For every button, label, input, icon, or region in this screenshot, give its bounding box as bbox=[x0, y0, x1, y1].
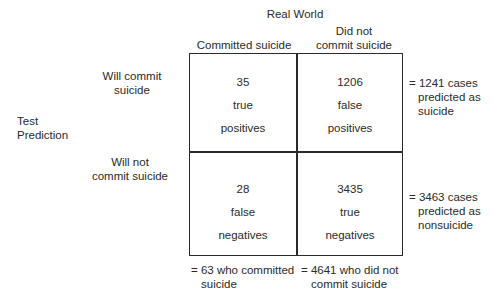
row-header-willnot-line1: Will not bbox=[80, 155, 180, 169]
fn-label-1: false bbox=[190, 201, 296, 224]
tp-label-1: true bbox=[190, 94, 296, 117]
row-header-willnot-line2: commit suicide bbox=[80, 169, 180, 183]
col-total-left-line2: suicide bbox=[201, 277, 237, 291]
col-total-right-line2: commit suicide bbox=[311, 277, 387, 291]
cell-true-positives: 35 true positives bbox=[190, 71, 296, 140]
row-total-top-line1: = 1241 cases bbox=[409, 76, 478, 90]
real-world-title: Real World bbox=[240, 8, 350, 20]
tn-label-1: true bbox=[297, 201, 403, 224]
tn-count: 3435 bbox=[297, 178, 403, 201]
row-header-will-line2: suicide bbox=[82, 83, 182, 97]
cell-false-negatives: 28 false negatives bbox=[190, 178, 296, 247]
matrix-horizontal-divider bbox=[189, 151, 403, 153]
axis-label-prediction: Prediction bbox=[17, 128, 68, 142]
col-total-left-line1: = 63 who committed bbox=[191, 263, 294, 277]
col-header-committed: Committed suicide bbox=[189, 38, 299, 52]
fn-count: 28 bbox=[190, 178, 296, 201]
axis-label-test: Test bbox=[17, 114, 38, 128]
col-header-did-not-line1: Did not bbox=[300, 24, 408, 38]
row-total-bottom-line1: = 3463 cases bbox=[409, 190, 478, 204]
row-total-top-line3: suicide bbox=[418, 104, 454, 118]
row-total-bottom-line2: predicted as bbox=[418, 204, 481, 218]
tp-label-2: positives bbox=[190, 117, 296, 140]
fp-label-1: false bbox=[297, 94, 403, 117]
row-total-bottom-line3: nonsuicide bbox=[418, 218, 473, 232]
cell-false-positives: 1206 false positives bbox=[297, 71, 403, 140]
tn-label-2: negatives bbox=[297, 224, 403, 247]
col-header-did-not-line2: commit suicide bbox=[300, 38, 408, 52]
fp-label-2: positives bbox=[297, 117, 403, 140]
fn-label-2: negatives bbox=[190, 224, 296, 247]
row-total-top-line2: predicted as bbox=[418, 90, 481, 104]
fp-count: 1206 bbox=[297, 71, 403, 94]
col-total-right-line1: = 4641 who did not bbox=[301, 263, 399, 277]
tp-count: 35 bbox=[190, 71, 296, 94]
cell-true-negatives: 3435 true negatives bbox=[297, 178, 403, 247]
row-header-will-line1: Will commit bbox=[82, 69, 182, 83]
